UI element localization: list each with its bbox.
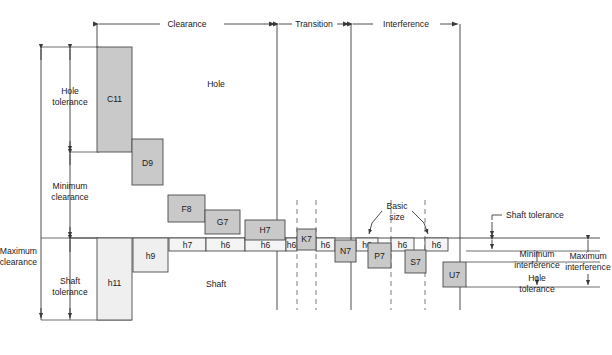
hole-box-n7: N7 xyxy=(335,240,356,262)
hole-box-label: G7 xyxy=(217,217,229,227)
top-span-interference: Interference xyxy=(353,19,458,29)
hole-box-k7: K7 xyxy=(297,229,316,250)
hole-box-d9: D9 xyxy=(132,139,163,185)
basic-size-leader-right xyxy=(412,211,428,234)
hole-box-f8: F8 xyxy=(168,195,205,222)
basic-size-label-l2: size xyxy=(389,212,405,222)
shaft-box-h7: h7 xyxy=(169,238,206,251)
shaft-box-label: h9 xyxy=(146,251,156,261)
dim-minimum-interference: Minimum interference xyxy=(492,240,560,270)
hole-box-label: U7 xyxy=(449,270,460,280)
basic-size-label-l1: Basic xyxy=(386,201,408,211)
shaft-box-label: h11 xyxy=(108,278,122,288)
hole-box-label: N7 xyxy=(340,246,351,256)
dim-label-shaft-tolerance-l2: tolerance xyxy=(52,287,88,297)
dim-label-minimum-clearance-l2: clearance xyxy=(51,192,88,202)
hole-box-label: K7 xyxy=(301,234,312,244)
hole-box-s7: S7 xyxy=(405,250,426,273)
dim-label-shaft-tolerance-right: Shaft tolerance xyxy=(506,210,564,220)
shaft-box-label: h6 xyxy=(261,240,271,250)
hole-box-h7: H7 xyxy=(245,220,285,240)
shaft-box-h6-1: h6 xyxy=(206,238,245,251)
shaft-box-h6-7: h6 xyxy=(425,238,448,251)
basic-size-leader-left xyxy=(369,211,382,234)
dim-label-maximum-clearance-l2: clearance xyxy=(0,257,37,267)
shaft-box-label: h6 xyxy=(221,240,231,250)
shaft-box-label: h6 xyxy=(287,240,297,250)
dim-label-maximum-clearance-l1: Maximum xyxy=(0,246,37,256)
dim-label-hole-tolerance-right-l1: Hole xyxy=(528,273,546,283)
span-label-interference: Interference xyxy=(383,19,429,29)
hole-box-label: C11 xyxy=(107,94,122,104)
hole-box-label: P7 xyxy=(374,251,385,261)
dim-label-hole-tolerance-l1: Hole xyxy=(61,86,79,96)
top-span-clearance: Clearance xyxy=(99,19,275,29)
dim-shaft-tolerance-right: Shaft tolerance xyxy=(492,210,564,236)
shaft-box-label: h6 xyxy=(398,240,408,250)
shaft-box-h6-3: h6 xyxy=(286,238,297,251)
shaft-box-h6-6: h6 xyxy=(391,238,414,251)
span-label-transition: Transition xyxy=(295,19,333,29)
shaft-box-label: h6 xyxy=(432,240,442,250)
top-span-transition: Transition xyxy=(279,19,349,29)
dim-label-maximum-interference-l1: Maximum xyxy=(569,251,606,261)
tolerance-diagram: Clearance Transition Interference Maximu… xyxy=(0,0,612,355)
dim-label-hole-tolerance-right-l2: tolerance xyxy=(519,284,555,294)
hole-box-u7: U7 xyxy=(443,262,466,287)
dim-label-hole-tolerance-l2: tolerance xyxy=(52,97,88,107)
shaft-box-label: h6 xyxy=(321,240,331,250)
hole-box-p7: P7 xyxy=(368,243,391,268)
hole-region-label: Hole xyxy=(207,79,225,89)
shaft-box-label: h7 xyxy=(183,240,193,250)
dim-maximum-clearance: Maximum clearance xyxy=(0,47,41,320)
shaft-box-h6-4: h6 xyxy=(316,238,335,251)
hole-box-c11: C11 xyxy=(97,47,132,152)
dim-label-maximum-interference-l2: interference xyxy=(565,262,611,272)
hole-box-g7: G7 xyxy=(205,210,240,234)
dim-maximum-interference: Maximum interference xyxy=(565,240,611,285)
shaft-box-h9: h9 xyxy=(133,238,168,272)
shaft-region-label: Shaft xyxy=(206,279,227,289)
hole-box-label: H7 xyxy=(260,225,271,235)
hole-box-label: S7 xyxy=(410,257,421,267)
dim-label-shaft-tolerance-l1: Shaft xyxy=(60,276,81,286)
span-label-clearance: Clearance xyxy=(167,19,206,29)
basic-size-callout: Basic size xyxy=(369,201,428,234)
hole-box-label: F8 xyxy=(181,204,191,214)
hole-box-label: D9 xyxy=(142,158,153,168)
dim-label-minimum-clearance-l1: Minimum xyxy=(53,181,88,191)
shaft-box-h11: h11 xyxy=(97,238,132,320)
